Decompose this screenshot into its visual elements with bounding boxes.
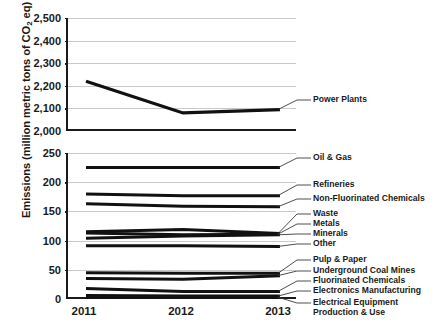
y-tick-label: 100: [43, 235, 61, 247]
series-line-other: [86, 246, 280, 247]
legend-label-non-fluorinated-chemicals: Non-Fluorinated Chemicals: [313, 194, 425, 204]
upper-series-lines: [68, 18, 298, 131]
upper-plot-area: [66, 18, 296, 131]
legend-label-electronics-manufacturing: Electronics Manufacturing: [313, 286, 421, 296]
upper-panel: 2,0002,1002,2002,3002,4002,500: [0, 0, 300, 140]
series-line-pulp-paper: [86, 273, 280, 274]
y-tick-label: 0: [55, 293, 61, 305]
y-tick-label: 200: [43, 176, 61, 188]
chart-root: Emissions (million metric tons of CO2 eq…: [0, 0, 438, 327]
series-line-refineries: [86, 194, 280, 196]
y-tick-label: 2,200: [33, 80, 61, 92]
y-tick-label: 2,000: [33, 125, 61, 137]
legend-label-power-plants: Power Plants: [313, 95, 367, 105]
y-tick-label: 2,300: [33, 57, 61, 69]
series-line-non-fluorinated-chemicals: [86, 204, 280, 207]
y-tick-label: 50: [49, 264, 61, 276]
legend-label-line2: Production & Use: [313, 308, 398, 318]
y-tick-label: 250: [43, 147, 61, 159]
legend-label-oil-gas: Oil & Gas: [313, 153, 352, 163]
x-tick-label-2013: 2013: [265, 305, 291, 317]
legend-label-refineries: Refineries: [313, 180, 355, 190]
lower-panel: 050100150200250 201120122013: [0, 140, 300, 327]
legend-label-electrical-equipment-production-use: Electrical EquipmentProduction & Use: [313, 298, 398, 317]
series-line-underground-coal-mines: [86, 276, 280, 280]
series-line-fluorinated-chemicals: [86, 288, 280, 291]
y-tick-label: 2,400: [33, 35, 61, 47]
series-line-minerals: [86, 235, 280, 239]
series-line-power-plants: [86, 81, 280, 113]
y-tick-label: 2,100: [33, 102, 61, 114]
lower-series-lines: [68, 153, 298, 299]
x-tick-label-2011: 2011: [72, 305, 97, 317]
lower-plot-area: [66, 153, 296, 299]
y-tick-label: 150: [43, 205, 61, 217]
legend-label-pulp-paper: Pulp & Paper: [313, 255, 366, 265]
legend-label-other: Other: [313, 239, 336, 249]
x-tick-label-2012: 2012: [168, 305, 194, 317]
y-tick-label: 2,500: [33, 12, 61, 24]
